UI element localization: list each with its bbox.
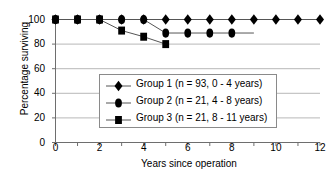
legend-item-1: Group 1 (n = 93, 0 - 4 years) xyxy=(100,75,276,92)
series-1-point-12 xyxy=(316,14,324,24)
series-2-point-3 xyxy=(118,15,125,24)
legend: Group 1 (n = 93, 0 - 4 years)Group 2 (n … xyxy=(99,74,277,128)
series-1-point-7 xyxy=(206,14,214,24)
series-1-point-9 xyxy=(250,14,258,24)
legend-marker xyxy=(115,80,123,90)
series-1-point-6 xyxy=(184,14,192,24)
series-1-point-5 xyxy=(162,14,170,24)
legend-item-label: Group 3 (n = 21, 8 - 11 years) xyxy=(132,112,267,123)
series-2-point-8 xyxy=(228,28,235,37)
x-axis-title: Years since operation xyxy=(50,158,328,169)
x-tick-label-10: 10 xyxy=(264,143,288,153)
legend-item-label: Group 1 (n = 93, 0 - 4 years) xyxy=(132,78,262,89)
series-3-point-3 xyxy=(118,27,125,35)
legend-item-label: Group 2 (n = 21, 4 - 8 years) xyxy=(132,95,262,106)
x-tick-label-12: 12 xyxy=(308,143,328,153)
x-axis-tick-labels: 024681012 xyxy=(0,143,328,157)
x-tick-label-0: 0 xyxy=(44,143,68,153)
series-2 xyxy=(52,15,254,38)
x-tick-label-4: 4 xyxy=(132,143,156,153)
series-3-point-4 xyxy=(140,33,147,41)
series-3-point-1 xyxy=(74,16,81,24)
y-axis-title: Percentage surviving xyxy=(19,0,30,139)
series-2-point-4 xyxy=(140,15,147,24)
survival-chart: 020406080100 024681012 Percentage surviv… xyxy=(0,0,328,177)
x-tick-label-6: 6 xyxy=(176,143,200,153)
x-tick-label-2: 2 xyxy=(88,143,112,153)
series-3-point-0 xyxy=(52,16,59,24)
series-2-point-6 xyxy=(184,28,191,37)
legend-item-3: Group 3 (n = 21, 8 - 11 years) xyxy=(100,109,276,126)
legend-marker xyxy=(115,116,122,124)
series-3-point-2 xyxy=(96,16,103,24)
series-1-point-8 xyxy=(228,14,236,24)
series-3-point-5 xyxy=(162,40,169,48)
legend-square-icon xyxy=(105,112,132,124)
series-2-point-7 xyxy=(206,28,213,37)
legend-marker xyxy=(115,98,122,107)
legend-circle-icon xyxy=(105,95,132,107)
series-3 xyxy=(52,16,169,49)
series-2-point-5 xyxy=(162,28,169,37)
series-1-point-10 xyxy=(272,14,280,24)
series-2-line xyxy=(56,20,254,34)
x-tick-label-8: 8 xyxy=(220,143,244,153)
series-1-point-11 xyxy=(294,14,302,24)
legend-diamond-icon xyxy=(105,78,132,90)
legend-item-2: Group 2 (n = 21, 4 - 8 years) xyxy=(100,92,276,109)
